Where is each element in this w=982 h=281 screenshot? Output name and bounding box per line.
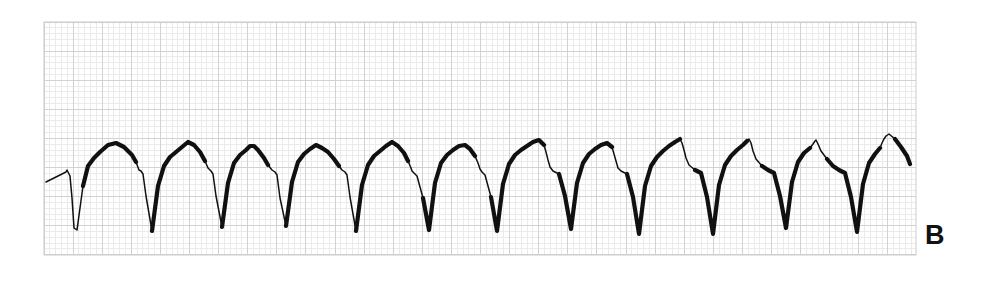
panel-label-b: B: [925, 222, 945, 249]
ecg-trace-qrs-line: [46, 134, 910, 234]
ecg-chart-canvas: [0, 0, 982, 281]
ecg-rhythm-strip-figure: B: [0, 0, 982, 281]
